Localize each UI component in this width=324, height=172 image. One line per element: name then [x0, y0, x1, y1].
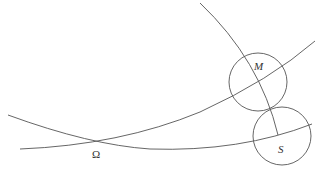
geometry-diagram: M S Ω	[0, 0, 324, 172]
label-m: M	[253, 60, 264, 72]
label-s: S	[278, 143, 284, 155]
steep-arc	[200, 3, 278, 135]
label-omega: Ω	[92, 148, 100, 160]
lower-arc	[8, 115, 312, 149]
circle-s	[253, 107, 311, 165]
